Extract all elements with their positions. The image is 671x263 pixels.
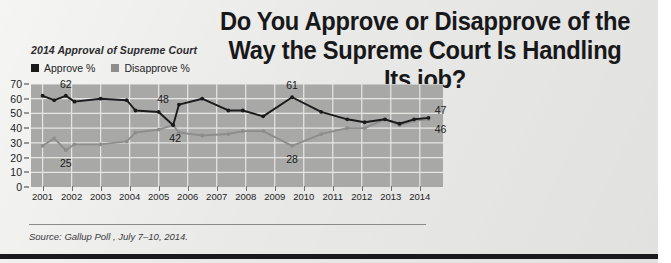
x-tick-label: 2009 [264, 191, 285, 202]
legend-label-approve: Approve % [44, 62, 95, 74]
data-point-label: 42 [169, 132, 181, 144]
data-point-label: 28 [286, 153, 298, 165]
data-point-label: 62 [60, 78, 72, 90]
x-axis: 2001200220032004200520062007200820092010… [31, 191, 443, 205]
y-tick-mark [24, 187, 29, 188]
y-tick-mark [24, 157, 29, 158]
x-tick-label: 2004 [119, 191, 140, 202]
legend-swatch-disapprove [111, 64, 119, 72]
y-tick-label: 30 [0, 137, 22, 149]
data-point-label: 25 [60, 157, 72, 169]
x-tick-label: 2011 [323, 191, 343, 202]
line-chart-svg [31, 84, 443, 187]
y-tick-mark [24, 113, 29, 114]
chart-container: 2014 Approval of Supreme Court Approve %… [0, 44, 470, 219]
y-tick-label: 20 [0, 152, 22, 164]
y-tick-mark [24, 142, 29, 143]
data-point-label: 48 [157, 93, 169, 105]
legend-swatch-approve [31, 64, 39, 72]
y-tick-label: 60 [0, 93, 22, 105]
x-tick-label: 2014 [409, 191, 430, 202]
x-tick-label: 2012 [351, 191, 372, 202]
y-tick-label: 50 [0, 107, 22, 119]
x-tick-label: 2010 [293, 191, 314, 202]
legend-item-approve: Approve % [31, 62, 95, 74]
y-tick-label: 10 [0, 166, 22, 178]
x-tick-label: 2003 [90, 191, 111, 202]
chart-title: 2014 Approval of Supreme Court [31, 44, 197, 56]
data-point-label: 61 [286, 79, 298, 91]
data-point-label: 46 [435, 123, 447, 135]
x-tick-label: 2006 [177, 191, 198, 202]
x-tick-label: 2002 [61, 191, 82, 202]
y-tick-mark [24, 84, 29, 85]
chart-legend: Approve % Disapprove % [31, 62, 190, 74]
data-point-label: 47 [435, 104, 447, 116]
legend-label-disapprove: Disapprove % [124, 62, 189, 74]
y-axis: 010203040506070 [0, 84, 31, 187]
x-tick-label: 2013 [380, 191, 401, 202]
x-tick-label: 2007 [206, 191, 227, 202]
legend-item-disapprove: Disapprove % [111, 62, 189, 74]
plot-background [31, 84, 443, 187]
source-divider [29, 224, 426, 225]
x-tick-label: 2008 [235, 191, 256, 202]
x-tick-label: 2001 [32, 191, 53, 202]
infographic-page: Do You Approve or Disapprove of the Way … [0, 0, 658, 263]
plot-area: 6225484261284746 [31, 84, 443, 187]
source-note: Source: Gallup Poll , July 7–10, 2014. [29, 231, 188, 242]
y-tick-label: 40 [0, 122, 22, 134]
y-tick-mark [24, 98, 29, 99]
y-tick-mark [24, 172, 29, 173]
x-tick-label: 2005 [148, 191, 169, 202]
y-tick-label: 70 [0, 78, 22, 90]
y-tick-label: 0 [0, 181, 22, 193]
bottom-bar [0, 254, 658, 259]
y-tick-mark [24, 128, 29, 129]
